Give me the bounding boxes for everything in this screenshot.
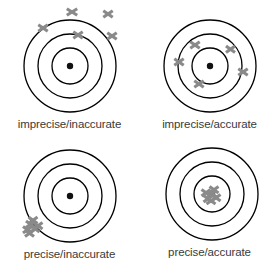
shot-mark [103, 11, 112, 17]
panel-label-precise-inaccurate: precise/inaccurate [0, 248, 139, 260]
target-panel-imprecise-inaccurate: imprecise/inaccurate [0, 0, 139, 136]
shot-mark [238, 69, 247, 75]
shot-mark [107, 33, 116, 39]
target-graphic-imprecise-inaccurate [0, 0, 139, 136]
shot-marks [23, 217, 43, 237]
shot-mark [190, 42, 199, 48]
panel-label-imprecise-inaccurate: imprecise/inaccurate [0, 118, 139, 130]
bullseye-dot [207, 63, 213, 69]
shot-mark [226, 46, 235, 53]
bullseye-dot [67, 63, 73, 69]
target-panel-imprecise-accurate: imprecise/accurate [140, 0, 279, 136]
panel-label-precise-accurate: precise/accurate [140, 246, 279, 258]
precision-accuracy-diagram: imprecise/inaccurate imprecise/accurate [0, 0, 279, 272]
shot-mark [67, 9, 77, 15]
panel-label-imprecise-accurate: imprecise/accurate [140, 118, 279, 130]
target-panel-precise-accurate: precise/accurate [140, 136, 279, 272]
shot-mark [38, 25, 47, 31]
shot-marks [202, 187, 221, 205]
target-graphic-imprecise-accurate [140, 0, 279, 136]
bullseye-dot [67, 193, 73, 199]
shot-mark [194, 81, 203, 87]
target-panel-precise-inaccurate: precise/inaccurate [0, 136, 139, 272]
